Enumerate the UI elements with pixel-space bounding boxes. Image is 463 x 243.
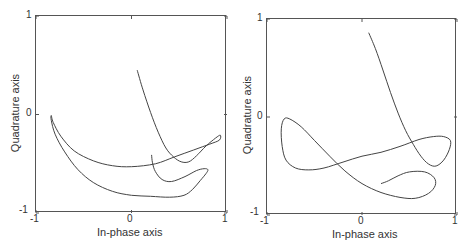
left-y-axis-label: Quadrature axis bbox=[9, 68, 21, 158]
left-xtick-mid: 0 bbox=[127, 214, 133, 224]
right-ytick-top: 1 bbox=[257, 13, 263, 23]
left-plot-curve bbox=[36, 16, 227, 213]
trajectory-line bbox=[51, 70, 221, 197]
left-plot-panel: 1 0 -1 -1 0 1 In-phase axis Quadrature a… bbox=[0, 0, 235, 243]
left-x-axis-label: In-phase axis bbox=[97, 226, 162, 238]
right-xtick-left: -1 bbox=[260, 216, 269, 226]
right-xtick-mid: 0 bbox=[358, 216, 364, 226]
right-xtick-right: 1 bbox=[452, 216, 458, 226]
tick-marks bbox=[267, 19, 457, 215]
right-x-axis-label: In-phase axis bbox=[332, 228, 397, 240]
left-ytick-top: 1 bbox=[26, 10, 32, 20]
left-plot-area bbox=[35, 15, 226, 212]
left-xtick-left: -1 bbox=[30, 214, 39, 224]
left-ytick-bottom: -1 bbox=[19, 205, 28, 215]
right-plot-curve bbox=[267, 19, 457, 215]
right-y-axis-label: Quadrature axis bbox=[241, 70, 253, 160]
right-plot-panel: 1 0 -1 -1 0 1 In-phase axis Quadrature a… bbox=[235, 0, 463, 243]
right-plot-area bbox=[266, 18, 456, 214]
left-ytick-mid: 0 bbox=[26, 108, 32, 118]
right-ytick-mid: 0 bbox=[257, 111, 263, 121]
left-xtick-right: 1 bbox=[222, 214, 228, 224]
trajectory-line bbox=[281, 33, 451, 199]
right-ytick-bottom: -1 bbox=[250, 207, 259, 217]
